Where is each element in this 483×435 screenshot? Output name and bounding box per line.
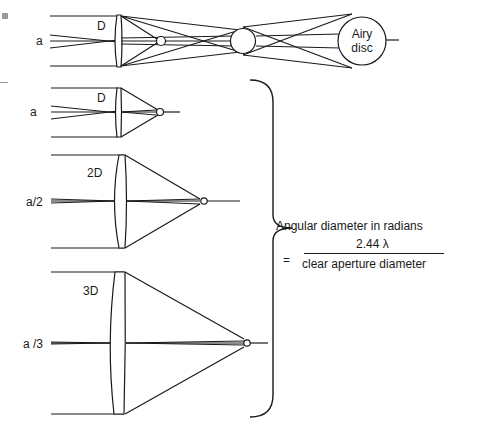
fraction-bar <box>304 253 444 254</box>
panel-aperture-d <box>51 88 180 137</box>
optics-diagram <box>0 0 483 435</box>
panel1-angle-label: a <box>30 106 37 118</box>
lens-3d <box>110 272 125 414</box>
top-aperture-label: D <box>97 20 106 32</box>
airy-disc-label-line2: disc <box>337 41 387 55</box>
airy-disc-label-line1: Airy <box>337 27 387 41</box>
formula-numerator: 2.44 λ <box>356 237 389 251</box>
curly-brace <box>250 80 292 417</box>
panel2-angle-label: a/2 <box>26 196 43 208</box>
airy-disc-label: Airy disc <box>337 27 387 55</box>
formula-heading: Angular diameter in radians <box>276 219 423 233</box>
panel2-aperture-label: 2D <box>87 167 102 179</box>
top-angle-label: a <box>36 35 43 47</box>
panel3-aperture-label: 3D <box>83 285 98 297</box>
focus-disc-2d <box>201 198 207 204</box>
formula-denominator: clear aperture diameter <box>302 257 426 271</box>
focus-disc-3d <box>244 340 250 346</box>
lens-2d <box>115 155 127 248</box>
focus-disc-d <box>157 109 164 116</box>
medium-airy-disc <box>231 29 256 54</box>
lens-top <box>115 15 122 67</box>
small-airy-disc <box>157 37 166 46</box>
panel-aperture-2d <box>51 155 240 248</box>
formula-equals: = <box>283 253 290 267</box>
panel3-angle-label: a /3 <box>23 338 43 350</box>
lens-d <box>116 88 122 137</box>
panel1-aperture-label: D <box>97 92 106 104</box>
